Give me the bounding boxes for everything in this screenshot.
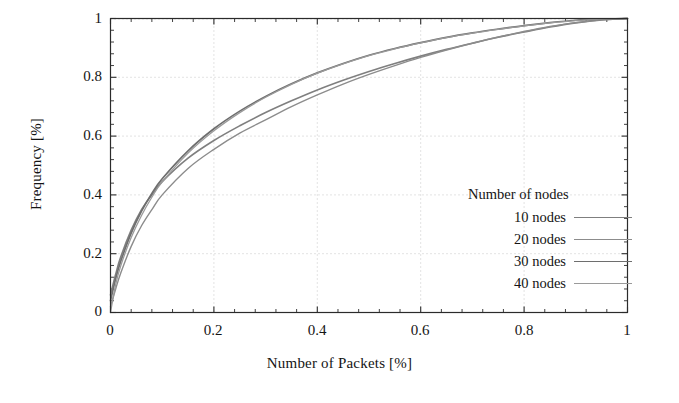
- legend: Number of nodes 10 nodes 20 nodes 30 nod…: [466, 186, 632, 294]
- legend-line-sample-20-nodes: [574, 239, 632, 240]
- legend-item: 10 nodes: [466, 206, 632, 228]
- legend-line-sample-10-nodes: [574, 217, 632, 218]
- xtick-label: 0.2: [183, 322, 243, 339]
- ytick-label: 0.8: [42, 68, 102, 85]
- legend-item: 30 nodes: [466, 250, 632, 272]
- chart-figure: 1 0.8 0.6 0.4 0.2 0 0 0.2 0.4 0.6 0.8 1 …: [0, 0, 679, 403]
- legend-item: 20 nodes: [466, 228, 632, 250]
- legend-item-label: 40 nodes: [514, 275, 566, 292]
- x-axis-label: Number of Packets [%]: [0, 355, 679, 372]
- y-axis-label: Frequency [%]: [28, 118, 45, 210]
- legend-item-label: 30 nodes: [514, 253, 566, 270]
- ytick-label: 0.2: [42, 245, 102, 262]
- ytick-label: 0: [42, 303, 102, 320]
- xtick-label: 0: [80, 322, 140, 339]
- legend-title: Number of nodes: [466, 186, 632, 203]
- xtick-label: 1: [597, 322, 657, 339]
- y-axis-label-wrap: Frequency [%]: [27, 34, 45, 294]
- legend-item: 40 nodes: [466, 272, 632, 294]
- xtick-label: 0.4: [287, 322, 347, 339]
- legend-item-label: 10 nodes: [514, 209, 566, 226]
- ytick-label: 0.6: [42, 127, 102, 144]
- ytick-label: 1: [42, 10, 102, 27]
- xtick-label: 0.6: [390, 322, 450, 339]
- xtick-label: 0.8: [494, 322, 554, 339]
- ytick-label: 0.4: [42, 186, 102, 203]
- legend-item-label: 20 nodes: [514, 231, 566, 248]
- legend-line-sample-40-nodes: [574, 283, 632, 284]
- legend-line-sample-30-nodes: [574, 261, 632, 262]
